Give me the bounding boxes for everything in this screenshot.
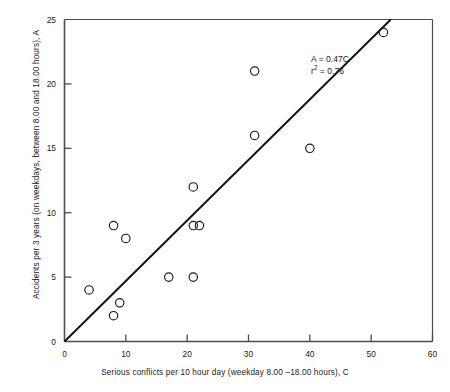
y-tick-label: 0 [30, 337, 56, 347]
data-point-marker [306, 144, 314, 152]
x-axis-label: Serious conflicts per 10 hour day (weekd… [0, 368, 450, 377]
data-point-marker [122, 234, 130, 242]
x-tick-label: 50 [366, 349, 375, 359]
y-tick-label: 15 [30, 143, 56, 153]
x-tick-label: 30 [244, 349, 253, 359]
x-tick-label: 0 [62, 349, 67, 359]
data-point-marker [189, 183, 197, 191]
data-point-marker [165, 273, 173, 281]
x-tick-label: 10 [121, 349, 130, 359]
plot-area [0, 0, 450, 392]
data-point-marker [379, 28, 387, 36]
x-tick-label: 20 [182, 349, 191, 359]
data-point-marker [250, 67, 258, 75]
plot-frame [65, 20, 433, 342]
data-point-marker [116, 299, 124, 307]
data-point-marker [85, 286, 93, 294]
y-tick-label: 20 [30, 79, 56, 89]
data-point-marker [109, 312, 117, 320]
x-tick-label: 60 [428, 349, 437, 359]
data-point-marker [195, 221, 203, 229]
r-squared-text: r2 = 0.76 [311, 66, 349, 78]
y-tick-label: 10 [30, 208, 56, 218]
data-point-marker [189, 273, 197, 281]
data-point-marker [250, 131, 258, 139]
data-point-marker [109, 221, 117, 229]
x-tick-label: 40 [305, 349, 314, 359]
y-tick-label: 5 [30, 272, 56, 282]
axis-ticks [65, 84, 433, 342]
y-tick-label: 25 [30, 15, 56, 25]
fit-equation-annotation: A = 0.47C r2 = 0.76 [311, 54, 349, 77]
scatter-chart-figure: Accidents per 3 years (on weekdays, betw… [0, 0, 450, 392]
